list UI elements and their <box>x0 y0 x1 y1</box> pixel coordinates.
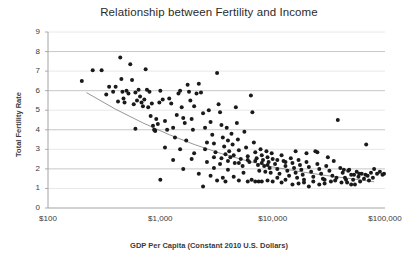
data-point <box>157 100 161 104</box>
data-point <box>144 67 148 71</box>
data-point <box>114 85 118 89</box>
data-point <box>290 183 294 187</box>
data-point <box>242 171 246 175</box>
data-point <box>217 102 221 106</box>
data-point <box>188 98 192 102</box>
data-point <box>163 145 167 149</box>
data-point <box>330 174 334 178</box>
y-tick-label: 2 <box>24 165 40 173</box>
data-point <box>257 169 261 173</box>
data-point <box>100 68 104 72</box>
data-point <box>371 176 375 180</box>
data-point <box>315 162 319 166</box>
data-point <box>324 164 328 168</box>
data-point <box>271 157 275 161</box>
data-point <box>301 173 305 177</box>
data-point <box>298 163 302 167</box>
data-point <box>135 98 139 102</box>
data-point <box>382 172 386 176</box>
data-point <box>178 89 182 93</box>
data-point <box>266 163 270 167</box>
data-point <box>283 178 287 182</box>
y-tick-label: 9 <box>24 28 40 36</box>
data-point <box>346 169 350 173</box>
data-point <box>210 133 214 137</box>
data-point <box>246 154 250 158</box>
data-point <box>232 153 236 157</box>
data-point <box>215 71 219 75</box>
y-tick-label: 8 <box>24 48 40 56</box>
data-point <box>295 176 299 180</box>
data-point <box>271 180 275 184</box>
data-point <box>222 144 226 148</box>
data-point <box>315 150 319 154</box>
data-point <box>353 183 357 187</box>
data-point <box>369 171 373 175</box>
data-point <box>290 161 294 165</box>
data-point <box>277 172 281 176</box>
data-point <box>205 140 209 144</box>
data-point <box>237 148 241 152</box>
data-point <box>266 179 270 183</box>
data-point <box>256 163 260 167</box>
data-point <box>280 181 284 185</box>
data-point <box>250 110 254 114</box>
data-point <box>197 172 201 176</box>
x-tick-label: $100,000 <box>355 215 415 223</box>
data-point <box>219 123 223 127</box>
data-point <box>184 139 188 143</box>
data-point <box>287 174 291 178</box>
data-point <box>212 141 216 145</box>
data-point <box>273 162 277 166</box>
data-point <box>226 168 230 172</box>
data-point <box>363 173 367 177</box>
data-point <box>180 105 184 109</box>
data-point <box>167 96 171 100</box>
data-point <box>253 150 257 154</box>
data-point <box>259 147 263 151</box>
y-tick-label: 5 <box>24 106 40 114</box>
data-point <box>232 175 236 179</box>
data-point <box>336 118 340 122</box>
data-point <box>142 97 146 101</box>
data-point <box>186 83 190 87</box>
y-tick-label: 6 <box>24 87 40 95</box>
data-point <box>191 128 195 132</box>
data-point <box>275 176 279 180</box>
data-point <box>219 156 223 160</box>
data-point <box>146 105 150 109</box>
data-point <box>260 153 264 157</box>
data-point <box>283 164 287 168</box>
data-point <box>133 91 137 95</box>
data-point <box>141 104 145 108</box>
data-point <box>228 155 232 159</box>
data-point <box>163 119 167 123</box>
data-point <box>364 142 368 146</box>
data-point <box>107 85 111 89</box>
data-point <box>203 147 207 151</box>
data-point <box>302 181 306 185</box>
data-point <box>190 117 194 121</box>
data-point <box>104 93 108 97</box>
data-point <box>358 180 362 184</box>
data-point <box>215 179 219 183</box>
y-tick-label: 3 <box>24 145 40 153</box>
data-point <box>171 158 175 162</box>
data-point <box>352 173 356 177</box>
data-point <box>223 152 227 156</box>
data-point <box>264 149 268 153</box>
gridlines <box>48 32 385 188</box>
data-point <box>275 158 279 162</box>
x-tick-label: $1,000 <box>130 215 190 223</box>
data-point <box>329 180 333 184</box>
data-point <box>223 180 227 184</box>
data-point <box>156 122 160 126</box>
data-point <box>311 175 315 179</box>
data-point <box>307 184 311 188</box>
data-point <box>226 159 230 163</box>
data-point <box>249 94 253 98</box>
data-point <box>214 150 218 154</box>
x-tick-label: $10,000 <box>243 215 303 223</box>
data-point <box>169 101 173 105</box>
data-point <box>165 128 169 132</box>
